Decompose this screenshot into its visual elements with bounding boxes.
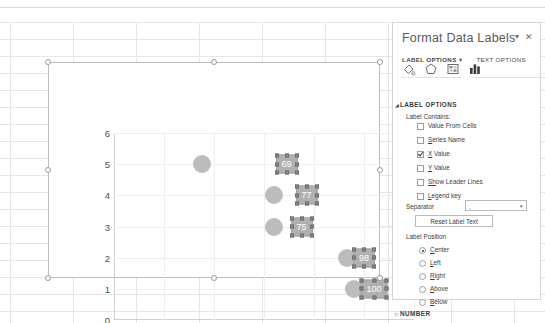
data-label-handle[interactable]	[359, 295, 363, 299]
data-label-handle[interactable]	[299, 216, 303, 220]
data-label-handle[interactable]	[294, 185, 298, 189]
data-label-handle[interactable]	[372, 247, 376, 251]
data-label-handle[interactable]	[284, 171, 288, 175]
data-label-handle[interactable]	[352, 247, 356, 251]
data-label-handle[interactable]	[299, 233, 303, 237]
label-options-expand-triangle[interactable]: ◢	[395, 102, 399, 108]
data-label-handle[interactable]	[310, 216, 314, 220]
data-label-handle[interactable]	[304, 185, 308, 189]
chart-resize-handle[interactable]	[211, 275, 217, 281]
data-label-handle[interactable]	[385, 295, 389, 299]
data-label-handle[interactable]	[362, 264, 366, 268]
size-properties-icon[interactable]	[445, 61, 461, 77]
data-label-handle[interactable]	[295, 154, 299, 158]
radio-label: Above	[430, 285, 448, 292]
radio-icon[interactable]	[419, 273, 426, 280]
data-label-text: 75	[296, 222, 306, 231]
data-label-handle[interactable]	[352, 256, 356, 260]
data-label-handle[interactable]	[372, 295, 376, 299]
radio-label: Center	[430, 246, 449, 253]
data-label-handle[interactable]	[372, 278, 376, 282]
data-label-handle[interactable]	[295, 162, 299, 166]
data-label-handle[interactable]	[352, 264, 356, 268]
data-label-handle[interactable]	[385, 278, 389, 282]
chart-resize-handle[interactable]	[377, 275, 383, 281]
data-label-handle[interactable]	[274, 171, 278, 175]
radio-icon[interactable]	[419, 299, 426, 306]
y-axis-tick: 3	[90, 221, 110, 232]
data-label-handle[interactable]	[295, 171, 299, 175]
y-axis-tick: 2	[90, 252, 110, 263]
reset-label-text-button[interactable]: Reset Label Text	[415, 215, 493, 227]
data-label-handle[interactable]	[385, 287, 389, 291]
chart-resize-handle[interactable]	[45, 275, 51, 281]
chart-resize-handle[interactable]	[45, 167, 51, 173]
chevron-down-icon[interactable]: ▾	[520, 203, 523, 209]
radio-icon[interactable]	[419, 286, 426, 293]
data-label-text: 69	[281, 160, 291, 169]
data-label-handle[interactable]	[274, 162, 278, 166]
data-label[interactable]: 98	[353, 248, 375, 267]
data-label-handle[interactable]	[315, 193, 319, 197]
data-label-handle[interactable]	[310, 233, 314, 237]
radio-icon[interactable]	[419, 247, 426, 254]
data-label[interactable]: 100	[360, 279, 387, 298]
chart-resize-handle[interactable]	[45, 59, 51, 65]
close-icon[interactable]: ✕	[525, 32, 533, 42]
data-label-handle[interactable]	[289, 216, 293, 220]
y-axis-tick: 0	[90, 315, 110, 323]
pane-title: Format Data Labels	[402, 31, 515, 45]
data-label-handle[interactable]	[284, 154, 288, 158]
data-label-handle[interactable]	[372, 256, 376, 260]
pane-icon-row[interactable]	[401, 61, 535, 78]
checkbox-label: Legend key	[428, 192, 461, 199]
number-section-header[interactable]: NUMBER	[400, 310, 430, 317]
fill-line-icon[interactable]	[401, 61, 417, 77]
chart-gridline	[314, 133, 315, 320]
chart-resize-handle[interactable]	[377, 59, 383, 65]
separator-label: Separator	[406, 203, 434, 210]
plot-area[interactable]: 0123456 020406080100120 69777598100	[114, 133, 414, 320]
chevron-down-icon[interactable]: ▾	[515, 32, 519, 41]
separator-select[interactable]: , ▾	[465, 200, 527, 211]
effects-icon[interactable]	[423, 61, 439, 77]
data-label[interactable]: 69	[275, 155, 297, 174]
data-label-handle[interactable]	[315, 185, 319, 189]
checkbox-icon[interactable]	[417, 193, 424, 200]
data-label-handle[interactable]	[289, 225, 293, 229]
data-bubble[interactable]	[193, 155, 211, 173]
chart-resize-handle[interactable]	[377, 167, 383, 173]
radio-label: Left	[430, 259, 441, 266]
data-label-text: 98	[359, 253, 369, 262]
data-label-text: 100	[366, 284, 381, 293]
format-data-labels-pane[interactable]: Format Data Labels ▾ ✕ LABEL OPTIONS▾ TE…	[392, 22, 541, 300]
checkbox-icon[interactable]	[417, 151, 424, 158]
number-expand-triangle[interactable]: ▷	[395, 311, 399, 317]
data-label-handle[interactable]	[359, 278, 363, 282]
data-label-handle[interactable]	[310, 225, 314, 229]
checkbox-icon[interactable]	[417, 123, 424, 130]
data-label[interactable]: 75	[290, 217, 312, 236]
data-label-handle[interactable]	[372, 264, 376, 268]
data-label[interactable]: 77	[295, 186, 317, 205]
data-label-handle[interactable]	[289, 233, 293, 237]
chart-resize-handle[interactable]	[211, 59, 217, 65]
data-label-handle[interactable]	[294, 202, 298, 206]
label-options-section-header[interactable]: LABEL OPTIONS	[400, 101, 457, 108]
checkbox-icon[interactable]	[417, 179, 424, 186]
data-label-handle[interactable]	[359, 287, 363, 291]
data-label-handle[interactable]	[315, 202, 319, 206]
data-bubble[interactable]	[265, 218, 283, 236]
checkbox-icon[interactable]	[417, 165, 424, 172]
data-label-handle[interactable]	[294, 193, 298, 197]
chart-object[interactable]: 0123456 020406080100120 69777598100	[48, 62, 380, 278]
data-bubble[interactable]	[265, 186, 283, 204]
radio-label: Below	[430, 298, 447, 305]
data-label-handle[interactable]	[304, 202, 308, 206]
checkbox-icon[interactable]	[417, 137, 424, 144]
radio-label: Right	[430, 272, 445, 279]
radio-icon[interactable]	[419, 260, 426, 267]
data-label-handle[interactable]	[362, 247, 366, 251]
data-label-handle[interactable]	[274, 154, 278, 158]
chart-gridline	[164, 133, 165, 320]
